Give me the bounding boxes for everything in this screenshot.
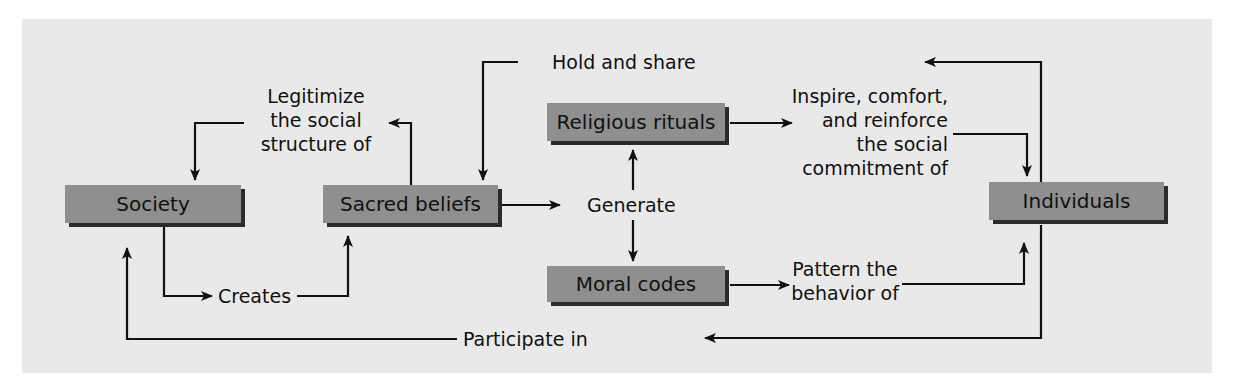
edge-label-generate: Generate — [587, 193, 676, 217]
legitimize-line-3: structure of — [236, 132, 396, 156]
inspire-line-4: commitment of — [770, 156, 948, 180]
node-individuals-label: Individuals — [1023, 189, 1131, 213]
edge-label-pattern: Pattern the behavior of — [790, 257, 900, 305]
node-sacred-beliefs: Sacred beliefs — [323, 185, 498, 223]
node-moral-codes-label: Moral codes — [576, 272, 697, 296]
inspire-line-1: Inspire, comfort, — [770, 84, 948, 108]
edge-label-inspire: Inspire, comfort, and reinforce the soci… — [770, 84, 948, 180]
edge-label-participate-in: Participate in — [463, 327, 588, 351]
edge-label-hold-and-share: Hold and share — [552, 50, 696, 74]
pattern-line-2: behavior of — [790, 281, 900, 305]
edge-label-legitimize: Legitimize the social structure of — [236, 84, 396, 156]
node-religious-rituals-label: Religious rituals — [557, 110, 716, 134]
inspire-line-2: and reinforce — [770, 108, 948, 132]
node-individuals: Individuals — [989, 182, 1164, 220]
pattern-line-1: Pattern the — [790, 257, 900, 281]
legitimize-line-2: the social — [236, 108, 396, 132]
legitimize-line-1: Legitimize — [236, 84, 396, 108]
node-moral-codes: Moral codes — [547, 266, 725, 302]
node-society: Society — [65, 185, 241, 223]
node-religious-rituals: Religious rituals — [547, 103, 725, 141]
inspire-line-3: the social — [770, 132, 948, 156]
node-sacred-beliefs-label: Sacred beliefs — [340, 192, 481, 216]
edge-label-creates: Creates — [218, 284, 291, 308]
node-society-label: Society — [116, 192, 189, 216]
